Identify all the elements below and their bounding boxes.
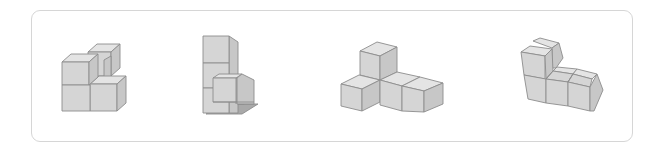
cube-figure-3 (341, 42, 443, 112)
cube-figure-2 (203, 36, 258, 114)
cube-figure-1 (62, 44, 126, 111)
cube-figure-4 (521, 38, 603, 111)
cube-figures-canvas (0, 0, 668, 155)
